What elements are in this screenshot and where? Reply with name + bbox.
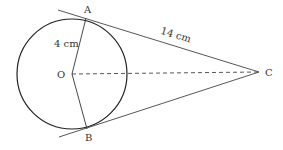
label-a: A [83,4,92,15]
tangent-diagram: A B O C 4 cm 14 cm [0,0,283,150]
tangent-line-a [58,10,259,72]
label-o: O [57,69,65,80]
radius-ob [72,74,87,129]
tangent-measure: 14 cm [159,25,192,45]
label-b: B [85,132,92,143]
tangent-line-b [59,72,259,137]
radius-measure: 4 cm [54,38,79,49]
label-c: C [265,67,273,78]
line-oc-dashed [72,72,259,74]
